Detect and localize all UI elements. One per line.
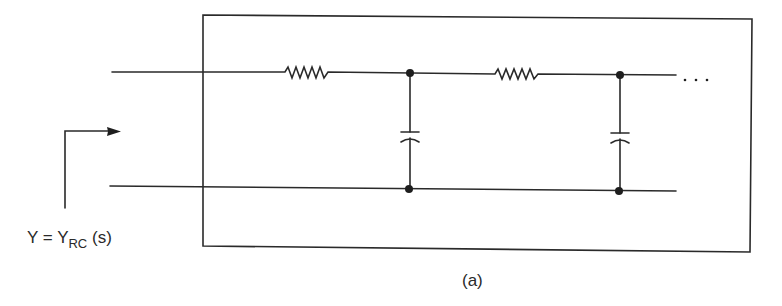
figure-caption: (a) [462, 271, 483, 291]
capacitor-2 [611, 75, 629, 191]
admittance-argument: (s) [92, 228, 112, 247]
enclosure-box [203, 15, 752, 252]
admittance-lhs: Y [27, 228, 38, 247]
arrow-head-icon [107, 127, 121, 136]
rc-ladder-diagram [0, 0, 782, 306]
node-dot [616, 71, 624, 79]
node-dot [615, 187, 623, 195]
node-dot [406, 69, 414, 77]
capacitor-1 [401, 73, 419, 189]
continuation-dots [684, 79, 709, 82]
admittance-label: Y = YRC (s) [27, 228, 112, 251]
node-dot [405, 185, 413, 193]
top-rail [112, 67, 676, 79]
input-arrow-line [65, 131, 110, 208]
admittance-symbol: Y [57, 228, 68, 247]
admittance-subscript: RC [68, 236, 87, 251]
bottom-rail [110, 186, 676, 191]
equals-sign: = [43, 228, 53, 247]
